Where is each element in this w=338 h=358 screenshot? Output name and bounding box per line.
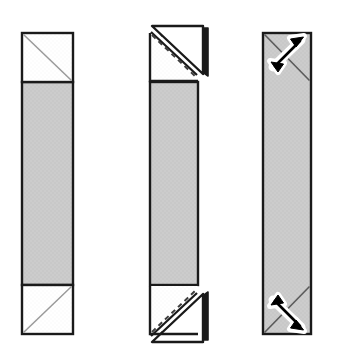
panel-1-body [22, 82, 73, 285]
fold-sequence-diagram [0, 0, 338, 358]
panel-2-body [150, 82, 198, 285]
panel-3-strip [263, 33, 311, 334]
panel-3-press-direction [263, 33, 311, 334]
figure-canvas: Marked strip Corners folded open Press d… [0, 0, 338, 358]
panel-2-corners-folded-open [150, 26, 208, 342]
panel-1-marked-strip [22, 33, 73, 334]
